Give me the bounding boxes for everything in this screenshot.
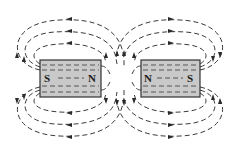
right-magnet-north-pole-label: N (144, 72, 152, 84)
magnetic-field-diagram: S N N S (0, 0, 237, 152)
left-magnet: S N (40, 60, 101, 97)
right-magnet: N S (141, 60, 200, 97)
right-magnet-south-pole-label: S (187, 72, 193, 84)
left-magnet-north-pole-label: N (88, 72, 96, 84)
left-magnet-south-pole-label: S (44, 72, 50, 84)
